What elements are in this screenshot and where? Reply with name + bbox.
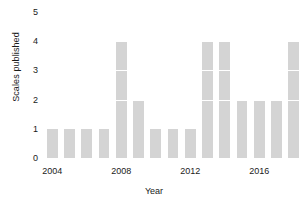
bar-segment: [116, 41, 127, 70]
bar: [99, 129, 110, 158]
plot-area: [42, 12, 304, 158]
y-tick-label: 0: [20, 153, 38, 163]
bar: [116, 41, 127, 158]
bar-segment: [288, 100, 299, 129]
bar-segment: [219, 41, 230, 70]
bar-segment: [116, 70, 127, 99]
x-axis-title: Year: [0, 186, 308, 196]
bar-segment: [116, 129, 127, 158]
x-tick-label: 2012: [180, 166, 200, 176]
bar: [133, 100, 144, 158]
bar: [185, 129, 196, 158]
bar: [168, 129, 179, 158]
x-tick-label: 2008: [111, 166, 131, 176]
bar-segment: [133, 100, 144, 129]
bar-segment: [64, 129, 75, 158]
bar-segment: [219, 100, 230, 129]
bar: [202, 41, 213, 158]
bar: [81, 129, 92, 158]
x-tick-label: 2016: [249, 166, 269, 176]
bar-segment: [288, 129, 299, 158]
bar-segment: [168, 129, 179, 158]
bar-segment: [202, 129, 213, 158]
x-tick-label: 2004: [42, 166, 62, 176]
bar: [64, 129, 75, 158]
y-tick-label: 2: [20, 95, 38, 105]
bar-segment: [81, 129, 92, 158]
bar-segment: [219, 129, 230, 158]
bar: [254, 100, 265, 158]
bar-segment: [116, 100, 127, 129]
bar: [150, 129, 161, 158]
bar-segment: [133, 129, 144, 158]
bar-segment: [202, 41, 213, 70]
y-axis-tick-labels: 012345: [20, 0, 38, 207]
bar-segment: [202, 100, 213, 129]
bar: [47, 129, 58, 158]
y-tick-label: 5: [20, 7, 38, 17]
y-tick-label: 1: [20, 124, 38, 134]
y-tick-label: 3: [20, 65, 38, 75]
bar: [288, 41, 299, 158]
bar-segment: [254, 129, 265, 158]
bar-chart: Scales published 012345 Year 20042008201…: [0, 0, 308, 207]
y-tick-label: 4: [20, 36, 38, 46]
bar-segment: [219, 70, 230, 99]
bar: [237, 100, 248, 158]
bar-segment: [202, 70, 213, 99]
bar-segment: [271, 129, 282, 158]
bar-segment: [150, 129, 161, 158]
bar-segment: [288, 41, 299, 70]
bar-segment: [237, 100, 248, 129]
bar-segment: [271, 100, 282, 129]
bar: [219, 41, 230, 158]
bar-segment: [288, 70, 299, 99]
bar-segment: [47, 129, 58, 158]
bar-segment: [237, 129, 248, 158]
bar-segment: [185, 129, 196, 158]
bar-segment: [99, 129, 110, 158]
bar-segment: [254, 100, 265, 129]
bar: [271, 100, 282, 158]
